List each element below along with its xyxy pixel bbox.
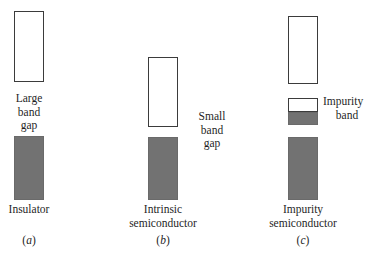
panel-a-gap-label-line3: gap	[0, 119, 58, 133]
panel-c-impurity-label-line2: band	[323, 109, 365, 123]
panel-b-gap-label: Small band gap	[181, 110, 243, 151]
panel-a-caption: Insulator	[0, 203, 66, 217]
panel-b-caption-line2: semiconductor	[113, 217, 213, 231]
band-structure-figure: Large band gap Insulator (a) Small band …	[0, 0, 365, 258]
panel-b-gap-label-line2: band	[181, 124, 243, 138]
panel-a-gap-label-line2: band	[0, 106, 58, 120]
panel-b-subfig-close: )	[166, 234, 170, 246]
panel-a-subfig-close: )	[32, 234, 36, 246]
panel-b-conduction-band	[148, 57, 178, 127]
panel-b-gap-label-line1: Small	[181, 110, 243, 124]
panel-b-caption: Intrinsic semiconductor	[113, 203, 213, 230]
panel-b-valence-band	[148, 137, 178, 200]
panel-c-caption: Impurity semiconductor	[253, 203, 353, 230]
panel-c-impurity-label-line1: Impurity	[323, 95, 365, 109]
panel-c-caption-line1: Impurity	[253, 203, 353, 217]
panel-c-impurity-band-label: Impurity band	[323, 95, 365, 122]
panel-c-valence-band	[288, 137, 318, 200]
panel-c-subfigure-label: (c)	[253, 234, 353, 246]
panel-b-subfigure-label: (b)	[113, 234, 213, 246]
panel-a-gap-label-line1: Large	[0, 92, 58, 106]
panel-b-gap-label-line3: gap	[181, 137, 243, 151]
panel-a-conduction-band	[14, 11, 44, 82]
panel-a-valence-band	[14, 136, 44, 200]
panel-a-subfigure-label: (a)	[0, 234, 66, 246]
panel-c-impurity-band	[288, 112, 318, 125]
panel-c-subfig-close: )	[306, 234, 310, 246]
panel-c-caption-line2: semiconductor	[253, 217, 353, 231]
panel-b-caption-line1: Intrinsic	[113, 203, 213, 217]
panel-c-conduction-band	[288, 16, 318, 84]
panel-a-caption-line1: Insulator	[0, 203, 66, 217]
panel-c-donor-level-box	[288, 98, 318, 112]
panel-a-gap-label: Large band gap	[0, 92, 58, 133]
